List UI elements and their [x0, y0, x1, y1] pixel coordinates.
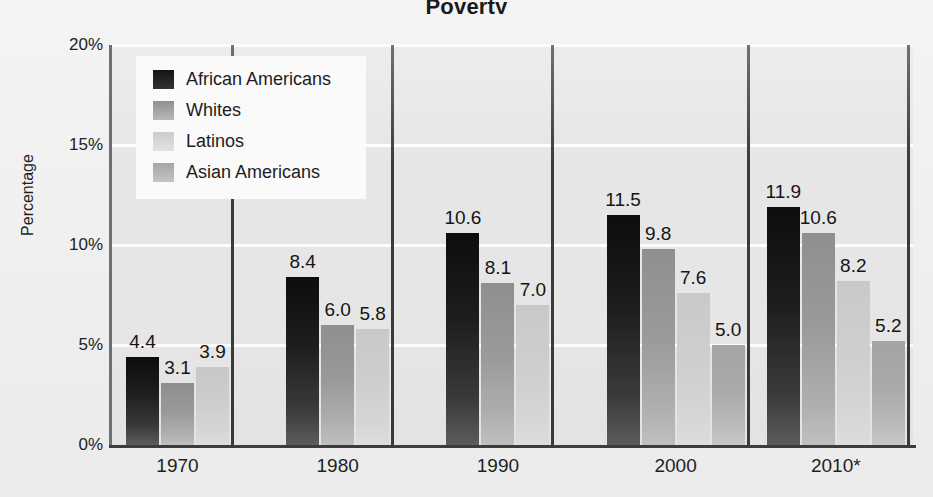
value-label-1990-african-americans: 10.6: [444, 207, 481, 229]
bar-2000-african-americans: [607, 215, 640, 445]
value-label-2010-asian-americans: 5.2: [875, 315, 901, 337]
chart-title-cropped: Poverty: [0, 0, 933, 14]
bar-1990-latinos: [516, 305, 549, 445]
x-tick-2010: 2010*: [766, 455, 906, 477]
legend-label-text: Asian Americans: [186, 162, 320, 183]
bar-2010-whites: [802, 233, 835, 445]
value-label-2010-whites: 10.6: [800, 207, 837, 229]
legend-item-african-americans: African Americans: [136, 64, 366, 95]
value-label-2000-latinos: 7.6: [680, 267, 706, 289]
value-label-1990-whites: 8.1: [485, 257, 511, 279]
x-tick-1980: 1980: [268, 455, 408, 477]
chart-title-text: Poverty: [425, 0, 507, 14]
bar-2010-african-americans: [767, 207, 800, 445]
y-tick-labels: 0%5%10%15%20%: [0, 0, 103, 497]
bar-2000-whites: [642, 249, 675, 445]
x-tick-1970: 1970: [108, 455, 248, 477]
y-axis-title: Percentage: [19, 115, 37, 275]
poverty-bar-chart-figure: Poverty 0%5%10%15%20% Percentage 1970198…: [0, 0, 933, 497]
legend-label-text: Whites: [186, 100, 241, 121]
value-label-2000-whites: 9.8: [645, 223, 671, 245]
value-label-2000-asian-americans: 5.0: [715, 319, 741, 341]
legend-item-whites: Whites: [136, 95, 366, 126]
value-label-1980-african-americans: 8.4: [289, 251, 315, 273]
bar-1970-african-americans: [126, 357, 159, 445]
bar-2010-asian-americans: [872, 341, 905, 445]
legend-label-text: Latinos: [186, 131, 244, 152]
bar-2000-latinos: [677, 293, 710, 445]
y-tick-0pct: 0%: [3, 435, 103, 455]
bar-1990-african-americans: [446, 233, 479, 445]
y-tick-20pct: 20%: [3, 35, 103, 55]
bar-1970-whites: [161, 383, 194, 445]
value-label-1980-latinos: 5.8: [359, 303, 385, 325]
y-tick-15pct: 15%: [3, 135, 103, 155]
bar-1980-whites: [321, 325, 354, 445]
value-label-2010-african-americans: 11.9: [766, 181, 802, 203]
group-separator-1990: [551, 45, 554, 445]
y-tick-10pct: 10%: [3, 235, 103, 255]
value-label-1970-african-americans: 4.4: [129, 331, 155, 353]
value-label-1980-whites: 6.0: [324, 299, 350, 321]
value-label-2010-latinos: 8.2: [840, 255, 866, 277]
value-label-2000-african-americans: 11.5: [605, 189, 641, 211]
legend-swatch-icon-whites: [153, 101, 174, 120]
bar-1970-latinos: [196, 367, 229, 445]
group-separator-2000: [747, 45, 750, 445]
value-label-1970-latinos: 3.9: [199, 341, 225, 363]
y-tick-5pct: 5%: [3, 335, 103, 355]
legend-label-text: African Americans: [186, 69, 331, 90]
legend-swatch-icon-african-americans: [153, 70, 174, 89]
legend-item-latinos: Latinos: [136, 126, 366, 157]
bar-2000-asian-americans: [712, 345, 745, 445]
legend-item-asian-americans: Asian Americans: [136, 157, 366, 188]
value-label-1990-latinos: 7.0: [520, 279, 546, 301]
group-separator-2010: [907, 45, 910, 445]
bar-1990-whites: [481, 283, 514, 445]
x-tick-2000: 2000: [606, 455, 746, 477]
value-label-1970-whites: 3.1: [164, 357, 190, 379]
bar-1980-african-americans: [286, 277, 319, 445]
bar-2010-latinos: [837, 281, 870, 445]
x-tick-1990: 1990: [428, 455, 568, 477]
chart-legend: African AmericansWhitesLatinosAsian Amer…: [136, 56, 366, 199]
y-axis-line: [109, 45, 112, 448]
bar-1980-latinos: [356, 329, 389, 445]
legend-swatch-icon-asian-americans: [153, 163, 174, 182]
x-axis-line: [109, 445, 916, 448]
legend-swatch-icon-latinos: [153, 132, 174, 151]
group-separator-1980: [391, 45, 394, 445]
